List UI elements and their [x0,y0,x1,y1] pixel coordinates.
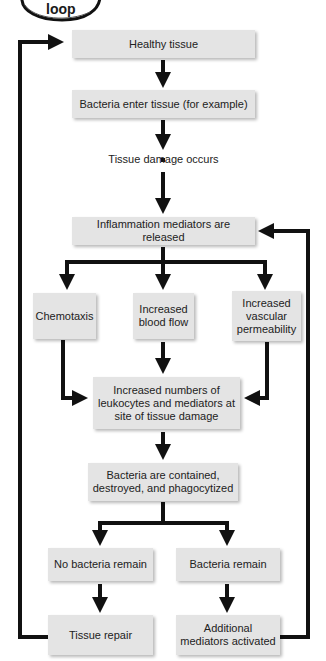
node-chemotaxis: Chemotaxis [33,293,96,339]
node-no-bacteria: No bacteria remain [48,548,153,581]
node-blood-flow: Increased blood flow [133,293,194,339]
node-mediators-released: Inflammation mediators are released [72,217,255,245]
node-permeability: Increased vascular permeability [232,291,301,341]
node-additional-mediators: Additional mediators activated [176,615,280,655]
node-bacteria-enter: Bacteria enter tissue (for example) [72,90,255,118]
node-leukocytes: Increased numbers of leukocytes and medi… [93,377,240,429]
node-tissue-repair: Tissue repair [48,615,153,655]
node-healthy-tissue: Healthy tissue [72,30,255,58]
node-bacteria-remain: Bacteria remain [176,548,280,581]
loop-badge-label: loop [46,1,76,17]
node-contained: Bacteria are contained, destroyed, and p… [88,463,238,501]
node-tissue-damage: Tissue damage occurs [72,153,255,166]
